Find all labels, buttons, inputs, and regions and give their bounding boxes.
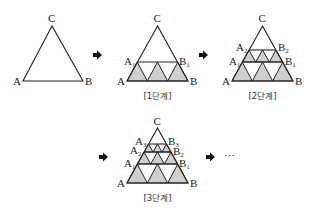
shaded-triangle [147,164,167,183]
stage-3: C A B A1 B1 A2 B2 A3 B3 [3단계] [117,115,197,203]
shaded-triangle [151,152,165,164]
stage-1: C A B A1 B1 [1단계] [117,12,197,101]
shaded-triangle [252,62,272,81]
stage-2-caption: [2단계] [248,91,276,101]
shaded-triangle [147,62,167,81]
right-arrow-icon [206,153,215,162]
label-b: B [85,75,92,87]
shaded-triangle [256,50,270,62]
label-c: C [259,12,266,24]
right-arrow-icon [99,153,108,162]
label-a: A [117,75,125,87]
label-b: B [295,75,302,87]
label-b2: B2 [278,41,289,55]
label-b3: B3 [168,135,179,149]
label-a1: A1 [124,157,136,171]
label-a3: A3 [135,135,147,149]
label-a: A [13,75,21,87]
label-b1: B1 [285,55,296,69]
label-c: C [154,12,161,24]
label-b: B [190,177,197,189]
right-arrow-icon [199,51,208,60]
triangle-subdivision-diagram: C A B C A B A1 B1 [1단계] C [0,0,319,214]
label-b1: B1 [179,157,190,171]
right-arrow-icon [93,51,102,60]
label-a1: A1 [124,55,136,69]
stage-1-caption: [1단계] [143,91,171,101]
label-b1: B1 [179,55,190,69]
label-a2: A2 [236,41,248,55]
stage-0: C A B [13,12,92,87]
label-a1: A1 [229,55,241,69]
shaded-triangle [153,144,162,152]
stage-2: C A B A1 B1 A2 B2 [2단계] [222,12,302,101]
label-a: A [222,75,230,87]
label-c: C [154,115,161,127]
stage-3-caption: [3단계] [143,193,171,203]
label-a: A [117,177,125,189]
label-c: C [48,12,55,24]
triangle-abc [23,26,83,81]
label-b: B [190,75,197,87]
ellipsis: ⋯ [224,150,235,162]
